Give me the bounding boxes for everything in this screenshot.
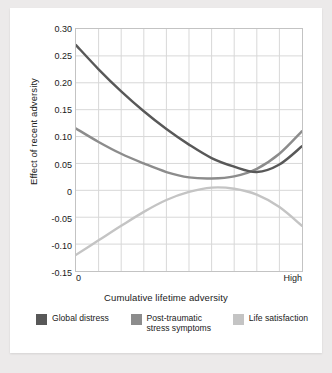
legend-label: Life satisfaction	[249, 313, 308, 323]
series-line	[76, 45, 302, 172]
y-tick-label: 0.10	[54, 132, 72, 142]
y-tick-label: 0.05	[54, 160, 72, 170]
x-axis-title: Cumulative lifetime adversity	[10, 292, 322, 303]
legend-item[interactable]: Post-traumatic stress symptoms	[131, 313, 211, 333]
plot-area: 0.300.250.200.150.100.050-0.05-0.10-0.15…	[75, 28, 303, 272]
legend-label: Post-traumatic stress symptoms	[147, 313, 211, 333]
y-tick-label: -0.05	[51, 214, 72, 224]
chart-legend: Global distressPost-traumatic stress sym…	[36, 313, 308, 333]
legend-swatch	[36, 314, 47, 325]
legend-swatch	[131, 314, 142, 325]
x-axis-high-label: High	[283, 273, 302, 283]
y-tick-label: -0.15	[51, 268, 72, 278]
y-tick-label: 0.20	[54, 78, 72, 88]
y-tick-label: 0.25	[54, 51, 72, 61]
y-tick-label: 0.30	[54, 24, 72, 34]
x-axis-low-label: 0	[76, 273, 81, 283]
series-line	[76, 187, 302, 254]
figure-card: Effect of recent adversity 0.300.250.200…	[10, 8, 322, 353]
legend-item[interactable]: Global distress	[36, 313, 109, 325]
series-layer	[76, 29, 302, 271]
y-axis-title: Effect of recent adversity	[28, 57, 39, 207]
legend-label: Global distress	[52, 313, 109, 323]
y-tick-label: 0	[67, 187, 72, 197]
y-tick-label: 0.15	[54, 105, 72, 115]
legend-swatch	[233, 314, 244, 325]
series-line	[76, 128, 302, 178]
y-tick-label: -0.10	[51, 241, 72, 251]
legend-item[interactable]: Life satisfaction	[233, 313, 308, 325]
